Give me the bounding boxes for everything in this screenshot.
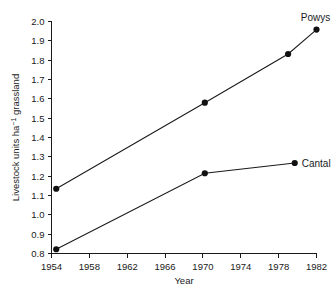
series-line-cantal	[56, 163, 295, 249]
y-axis-title: Livestock units ha−1 grassland	[10, 74, 22, 201]
y-tick-label: 0.8	[31, 248, 44, 259]
y-tick-label: 2.0	[31, 16, 44, 27]
y-tick-label: 1.7	[31, 74, 44, 85]
y-tick-label: 1.9	[31, 35, 44, 46]
x-tick-label: 1962	[117, 261, 138, 272]
y-tick-label: 1.8	[31, 55, 44, 66]
x-tick-label: 1954	[41, 261, 62, 272]
y-tick-label: 1.5	[31, 113, 44, 124]
data-point-cantal	[202, 170, 208, 176]
data-point-powys	[313, 27, 319, 33]
chart-plot-area: 0.80.91.01.11.21.31.41.51.61.71.81.92.01…	[0, 0, 336, 286]
y-tick-label: 1.0	[31, 209, 44, 220]
x-tick-label: 1970	[192, 261, 213, 272]
series-label-cantal: Cantal	[302, 158, 331, 169]
data-point-cantal	[292, 160, 298, 166]
chart-axes	[52, 22, 317, 254]
livestock-units-line-chart: 0.80.91.01.11.21.31.41.51.61.71.81.92.01…	[0, 0, 336, 286]
x-tick-label: 1966	[155, 261, 176, 272]
x-tick-label: 1974	[230, 261, 251, 272]
x-axis-title: Year	[174, 275, 193, 286]
y-tick-label: 1.3	[31, 151, 44, 162]
y-tick-label: 0.9	[31, 229, 44, 240]
y-tick-label: 1.4	[31, 132, 44, 143]
series-label-powys: Powys	[301, 12, 330, 23]
x-tick-label: 1982	[306, 261, 327, 272]
y-tick-label: 1.1	[31, 190, 44, 201]
data-point-powys	[53, 186, 59, 192]
data-point-powys	[285, 51, 291, 57]
y-tick-label: 1.2	[31, 171, 44, 182]
data-point-cantal	[53, 246, 59, 252]
data-point-powys	[202, 100, 208, 106]
x-tick-label: 1958	[79, 261, 100, 272]
y-tick-label: 1.6	[31, 93, 44, 104]
x-tick-label: 1978	[268, 261, 289, 272]
